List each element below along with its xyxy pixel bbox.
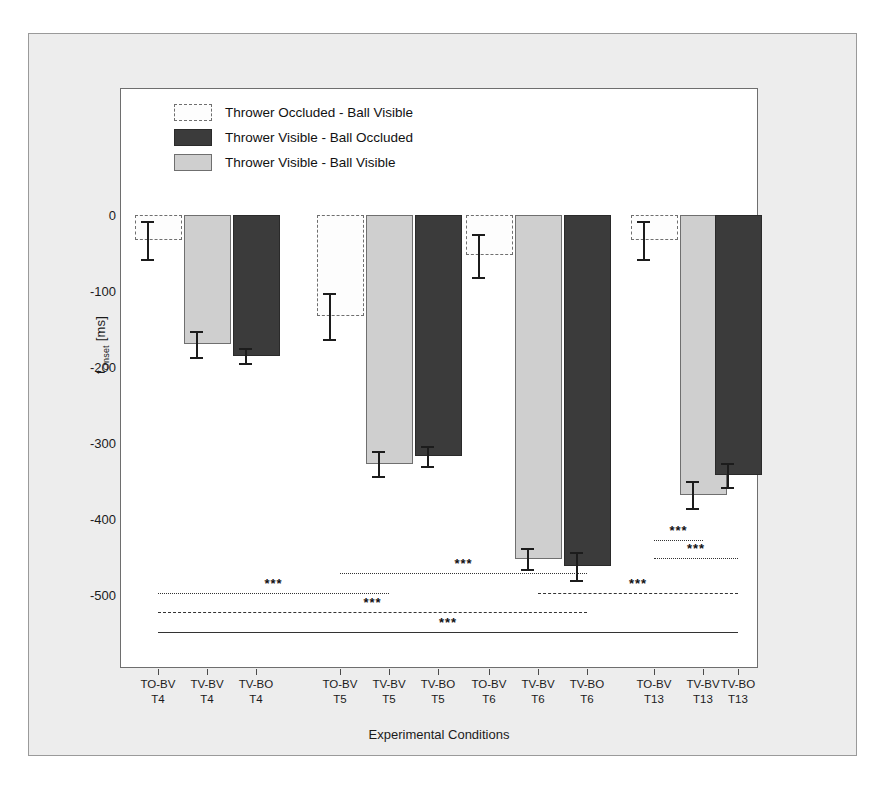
x-axis-title: Experimental Conditions [120,727,758,742]
legend-item-2[interactable]: Thrower Visible - Ball Occluded [174,125,413,150]
y-axis-tick-label: -400 [70,512,116,527]
x-axis-tick [538,669,539,675]
significance-bracket [340,573,587,574]
legend-label: Thrower Visible - Ball Visible [225,155,396,170]
error-bar-cap [570,552,583,554]
x-axis-label-tv-bo-t13: TV-BOT13 [707,677,769,707]
significance-stars: *** [363,597,381,609]
x-axis-tick [738,669,739,675]
error-bar-cap [372,451,385,453]
bar-tv-bv-t5[interactable] [366,215,413,464]
error-bar-cap [141,221,154,223]
error-bar-cap [239,363,252,365]
significance-stars: *** [454,558,472,570]
x-axis-tick [256,669,257,675]
significance-stars: *** [439,617,457,629]
y-axis-tick-label: -500 [70,588,116,603]
x-axis-label-condition: TV-BO [570,678,605,690]
x-axis-tick [207,669,208,675]
error-bar-cap [190,357,203,359]
error-bar-cap [421,466,434,468]
bar-to-bv-t4[interactable] [135,215,182,240]
y-axis-tick-label: 0 [70,208,116,223]
error-bar [576,552,578,579]
error-bar-cap [421,446,434,448]
error-bar-cap [637,221,650,223]
x-axis-label-tv-bo-t6: TV-BOT6 [556,677,618,707]
bar-tv-bo-t5[interactable] [415,215,462,456]
chart-legend: Thrower Occluded - Ball VisibleThrower V… [174,100,413,175]
error-bar [329,293,331,339]
error-bar-cap [323,339,336,341]
error-bar [478,234,480,277]
x-axis-tick [489,669,490,675]
bar-to-bv-t13[interactable] [631,215,678,240]
x-axis-label-condition: TV-BV [190,678,223,690]
bar-tv-bo-t4[interactable] [233,215,280,356]
error-bar-cap [721,463,734,465]
significance-bracket [654,558,738,559]
error-bar [196,331,198,357]
legend-label: Thrower Visible - Ball Occluded [225,130,413,145]
x-axis-tick [703,669,704,675]
y-axis-tick-labels: 0-100-200-300-400-500 [64,0,116,785]
error-bar-cap [686,481,699,483]
bar-tv-bo-t13[interactable] [715,215,762,475]
error-bar [427,446,429,466]
x-axis-tick [158,669,159,675]
significance-bracket [158,612,587,613]
error-bar-cap [637,259,650,261]
figure-canvas: tOnset [ms] 0-100-200-300-400-500 ******… [0,0,884,785]
legend-swatch-lightgray [174,154,212,171]
bar-tv-bo-t6[interactable] [564,215,611,566]
x-axis-tick [438,669,439,675]
y-axis-tick-label: -200 [70,360,116,375]
error-bar [692,481,694,508]
error-bar-cap [323,293,336,295]
x-axis-label-trial: T13 [707,692,769,707]
x-axis-label-trial: T4 [225,692,287,707]
error-bar-cap [239,348,252,350]
x-axis-label-condition: TV-BV [521,678,554,690]
legend-label: Thrower Occluded - Ball Visible [225,105,413,120]
legend-swatch-dark [174,129,212,146]
x-axis-label-condition: TO-BV [637,678,672,690]
error-bar-cap [521,569,534,571]
error-bar [245,348,247,363]
y-axis-tick-label: -100 [70,284,116,299]
significance-stars: *** [669,525,687,537]
significance-stars: *** [687,543,705,555]
significance-bracket [158,632,738,633]
x-axis-label-condition: TV-BO [421,678,456,690]
bar-tv-bv-t6[interactable] [515,215,562,559]
error-bar-cap [190,331,203,333]
x-axis-label-condition: TV-BO [239,678,274,690]
error-bar [378,451,380,477]
x-axis-label-condition: TO-BV [141,678,176,690]
x-axis-tick [654,669,655,675]
error-bar-cap [472,234,485,236]
x-axis-label-tv-bo-t4: TV-BOT4 [225,677,287,707]
legend-item-3[interactable]: Thrower Visible - Ball Visible [174,150,413,175]
legend-item-1[interactable]: Thrower Occluded - Ball Visible [174,100,413,125]
significance-bracket [538,593,738,594]
error-bar-cap [721,487,734,489]
error-bar [643,221,645,259]
significance-stars: *** [264,578,282,590]
significance-bracket [158,593,389,594]
bar-tv-bv-t4[interactable] [184,215,231,344]
x-axis-label-condition: TV-BO [721,678,756,690]
error-bar-cap [521,548,534,550]
error-bar-cap [472,277,485,279]
error-bar [147,221,149,259]
x-axis-tick [587,669,588,675]
y-axis-tick-label: -300 [70,436,116,451]
significance-stars: *** [629,578,647,590]
error-bar-cap [570,580,583,582]
error-bar [527,548,529,569]
bar-to-bv-t5[interactable] [317,215,364,316]
x-axis-label-condition: TV-BV [372,678,405,690]
legend-swatch-white [174,104,212,121]
error-bar-cap [686,508,699,510]
x-axis-label-condition: TO-BV [323,678,358,690]
